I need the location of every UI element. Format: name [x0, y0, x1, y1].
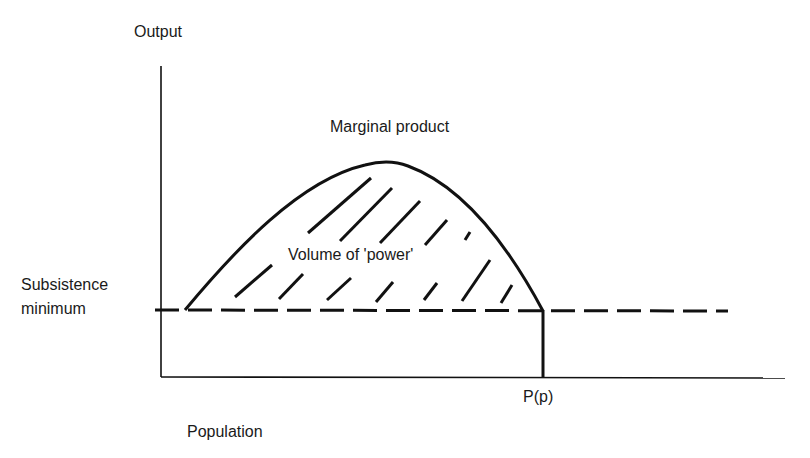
- threshold-label-line1: Subsistence: [21, 275, 108, 294]
- area-label: Volume of 'power': [288, 245, 413, 264]
- x-marker-label: P(p): [523, 387, 553, 406]
- threshold-label-line2: minimum: [21, 299, 86, 318]
- y-axis-label: Output: [134, 22, 182, 41]
- x-axis-label: Population: [187, 422, 263, 441]
- subsistence-minimum-line: [155, 310, 728, 311]
- hatch-lines: [235, 178, 512, 303]
- x-axis: [161, 377, 785, 378]
- curve-label: Marginal product: [330, 117, 449, 136]
- diagram-canvas: [0, 0, 810, 458]
